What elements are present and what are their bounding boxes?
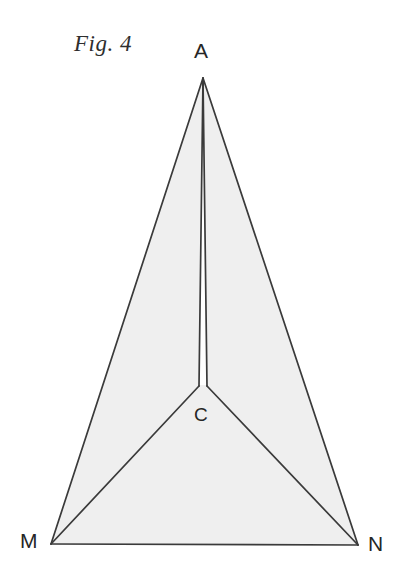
figure-caption: Fig. 4 bbox=[74, 30, 132, 58]
vertex-label-c: C bbox=[194, 404, 208, 425]
figure-container: Fig. 4 A C M N bbox=[0, 0, 406, 580]
vertex-label-a: A bbox=[194, 40, 208, 61]
geometry-diagram bbox=[0, 0, 406, 580]
vertex-label-m: M bbox=[20, 530, 38, 551]
segment-m-n bbox=[51, 544, 358, 545]
vertex-label-n: N bbox=[368, 533, 383, 554]
